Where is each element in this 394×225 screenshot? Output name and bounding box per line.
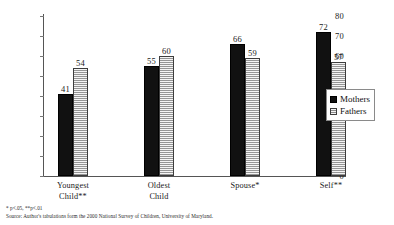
bar-value-label: 72 (319, 23, 328, 32)
bar-value-label: 57 (334, 53, 343, 62)
bar-value-label: 59 (248, 49, 257, 58)
category-label-2: Spouse* (202, 181, 288, 192)
bar-value-label: 60 (162, 47, 171, 56)
x-axis-baseline (43, 176, 346, 177)
legend-swatch-fathers-icon (330, 108, 337, 115)
category-label-line: Child** (30, 192, 116, 203)
bar-value-label: 66 (233, 35, 242, 44)
bar-fathers: 59 (245, 58, 260, 176)
category-label-line: Self** (288, 181, 374, 192)
bar-fathers: 60 (159, 56, 174, 176)
bar-mothers: 41 (58, 94, 73, 176)
bar-value-label: 55 (147, 57, 156, 66)
bar-group: 5560 (144, 16, 174, 176)
category-label-0: YoungestChild** (30, 181, 116, 202)
bar-value-label: 54 (76, 59, 85, 68)
bar-mothers: 66 (230, 44, 245, 176)
bar-fathers: 54 (73, 68, 88, 176)
y-tick-mark-0 (40, 176, 44, 177)
bar-chart-figure: 80706050403020100 4154556066597257 Young… (0, 0, 394, 225)
category-label-line: Youngest (30, 181, 116, 192)
legend-item-mothers: Mothers (330, 93, 370, 105)
chart-legend: MothersFathers (326, 89, 375, 121)
footnote-significance: * p<.05, **p<.01 (6, 205, 386, 213)
bar-group: 6659 (230, 16, 260, 176)
legend-label: Fathers (340, 106, 367, 116)
category-label-line: Spouse* (202, 181, 288, 192)
legend-label: Mothers (340, 94, 370, 104)
legend-item-fathers: Fathers (330, 105, 370, 117)
category-label-1: OldestChild (116, 181, 202, 202)
legend-swatch-mothers-icon (330, 96, 337, 103)
plot-area: 4154556066597257 (44, 16, 345, 176)
bar-value-label: 41 (61, 85, 70, 94)
footnote-source: Source: Author's tabulations form the 20… (6, 213, 386, 221)
bar-mothers: 55 (144, 66, 159, 176)
bar-group: 4154 (58, 16, 88, 176)
category-label-line: Child (116, 192, 202, 203)
category-label-3: Self** (288, 181, 374, 192)
footnotes: * p<.05, **p<.01 Source: Author's tabula… (6, 205, 386, 220)
category-label-line: Oldest (116, 181, 202, 192)
